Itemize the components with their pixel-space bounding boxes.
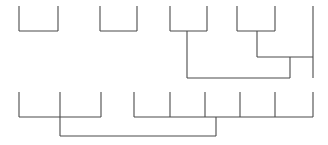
- top-tree: [19, 6, 313, 78]
- diagram-canvas: [0, 0, 328, 145]
- bottom-tree: [19, 92, 313, 136]
- bracket-dendrogram-svg: [0, 0, 328, 145]
